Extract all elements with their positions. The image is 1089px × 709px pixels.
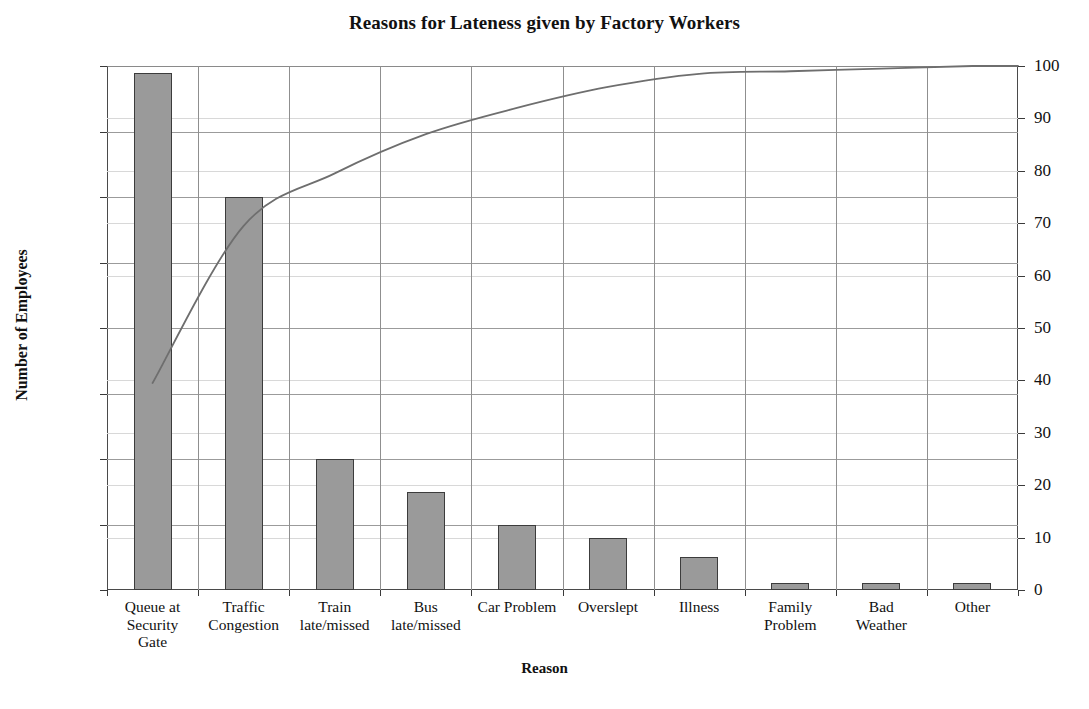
y-axis-right-tick-label: 70 <box>1034 214 1089 231</box>
y-axis-right-tick-label: 0 <box>1034 581 1089 598</box>
y-axis-left-tick <box>100 590 107 591</box>
x-axis-title: Reason <box>0 660 1089 677</box>
y-axis-right-tick-label: 100 <box>1034 57 1089 74</box>
y-axis-right-tick-label: 30 <box>1034 424 1089 441</box>
bar <box>862 583 900 590</box>
y-axis-right-tick <box>1018 118 1025 119</box>
bar <box>771 583 809 590</box>
x-axis-tick-label: Illness <box>654 598 745 616</box>
bar <box>407 492 445 590</box>
x-axis-tick <box>198 590 199 596</box>
y-axis-left-tick <box>100 197 107 198</box>
grid-line-vertical <box>198 66 199 590</box>
grid-line-vertical <box>289 66 290 590</box>
chart-title: Reasons for Lateness given by Factory Wo… <box>0 12 1089 34</box>
y-axis-right-tick <box>1018 485 1025 486</box>
x-axis-tick <box>563 590 564 596</box>
grid-line-vertical <box>380 66 381 590</box>
x-axis-tick-label-line: Congestion <box>198 616 289 634</box>
y-axis-right-tick-label: 20 <box>1034 476 1089 493</box>
x-axis-tick-label-line: Bus <box>380 598 471 616</box>
y-axis-left-tick <box>100 263 107 264</box>
grid-line-vertical <box>836 66 837 590</box>
x-axis-tick-label-line: Weather <box>836 616 927 634</box>
x-axis-tick-label: FamilyProblem <box>745 598 836 633</box>
x-axis-tick <box>289 590 290 596</box>
y-axis-right-tick <box>1018 433 1025 434</box>
y-axis-right-tick <box>1018 276 1025 277</box>
x-axis-tick <box>471 590 472 596</box>
y-axis-right-tick <box>1018 223 1025 224</box>
x-axis-tick <box>927 590 928 596</box>
y-axis-right-tick <box>1018 538 1025 539</box>
x-axis-tick <box>654 590 655 596</box>
x-axis-tick-label-line: Car Problem <box>471 598 562 616</box>
x-axis-tick-label-line: Queue at <box>107 598 198 616</box>
y-axis-left-tick <box>100 525 107 526</box>
plot-area <box>107 66 1018 590</box>
bar <box>134 73 172 590</box>
x-axis-tick-label-line: Security <box>107 616 198 634</box>
y-axis-right-tick <box>1018 590 1025 591</box>
bar <box>680 557 718 590</box>
y-axis-right-tick <box>1018 380 1025 381</box>
y-axis-left-tick <box>100 328 107 329</box>
x-axis-tick-label-line: Illness <box>654 598 745 616</box>
x-axis-tick-label: Queue atSecurityGate <box>107 598 198 651</box>
x-axis-tick-label-line: Bad <box>836 598 927 616</box>
grid-line-vertical <box>745 66 746 590</box>
y-axis-right-tick-label: 40 <box>1034 371 1089 388</box>
y-axis-left-tick <box>100 394 107 395</box>
x-axis-tick <box>1018 590 1019 596</box>
x-axis-tick-label-line: Gate <box>107 633 198 651</box>
y-axis-right-tick <box>1018 328 1025 329</box>
bar <box>316 459 354 590</box>
x-axis-tick <box>745 590 746 596</box>
x-axis-tick-label: Overslept <box>563 598 654 616</box>
grid-line-vertical <box>654 66 655 590</box>
x-axis-tick-label-line: Train <box>289 598 380 616</box>
grid-line-vertical <box>471 66 472 590</box>
y-axis-right-tick-label: 50 <box>1034 319 1089 336</box>
x-axis-tick-label: Trainlate/missed <box>289 598 380 633</box>
x-axis-tick-label: Other <box>927 598 1018 616</box>
x-axis-tick <box>107 590 108 596</box>
y-axis-left-tick <box>100 459 107 460</box>
bar <box>498 525 536 591</box>
y-axis-title: Number of Employees <box>13 249 31 401</box>
x-axis-tick-label-line: Overslept <box>563 598 654 616</box>
y-axis-right-tick <box>1018 66 1025 67</box>
y-axis-right-tick <box>1018 171 1025 172</box>
grid-line-vertical <box>563 66 564 590</box>
pareto-chart: Reasons for Lateness given by Factory Wo… <box>0 0 1089 709</box>
x-axis-tick-label: Buslate/missed <box>380 598 471 633</box>
x-axis-tick-label-line: late/missed <box>380 616 471 634</box>
y-axis-right-tick-label: 60 <box>1034 267 1089 284</box>
x-axis-tick-label-line: Problem <box>745 616 836 634</box>
grid-line-vertical <box>927 66 928 590</box>
x-axis-tick-label-line: late/missed <box>289 616 380 634</box>
x-axis-tick-label: TrafficCongestion <box>198 598 289 633</box>
bar <box>225 197 263 590</box>
bar <box>589 538 627 590</box>
cumulative-percent-path <box>153 66 1018 383</box>
x-axis-tick <box>380 590 381 596</box>
y-axis-left-tick <box>100 132 107 133</box>
y-axis-left-tick <box>100 66 107 67</box>
y-axis-right-tick-label: 80 <box>1034 162 1089 179</box>
x-axis-tick-label: Car Problem <box>471 598 562 616</box>
bar <box>953 583 991 590</box>
x-axis-tick <box>836 590 837 596</box>
y-axis-right-tick-label: 90 <box>1034 109 1089 126</box>
x-axis-tick-label-line: Other <box>927 598 1018 616</box>
x-axis-tick-label: BadWeather <box>836 598 927 633</box>
x-axis-tick-label-line: Family <box>745 598 836 616</box>
y-axis-right-tick-label: 10 <box>1034 529 1089 546</box>
x-axis-tick-label-line: Traffic <box>198 598 289 616</box>
